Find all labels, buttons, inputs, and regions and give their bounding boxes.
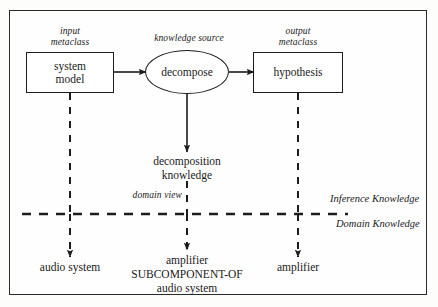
label-instance-center-line1: amplifier — [122, 254, 252, 268]
label-decomposition-knowledge: decomposition knowledge — [137, 155, 237, 183]
node-hypothesis[interactable]: hypothesis — [253, 52, 343, 93]
caption-knowledge-source: knowledge source — [136, 33, 242, 44]
caption-input-metaclass-line2: metaclass — [26, 37, 114, 48]
caption-domain-view-text: domain view — [133, 190, 182, 200]
label-inference-knowledge: Inference Knowledge — [330, 193, 419, 204]
label-instance-amplifier: amplifier — [266, 261, 330, 275]
label-domain-knowledge: Domain Knowledge — [336, 218, 420, 229]
node-system-model[interactable]: system model — [26, 52, 114, 93]
node-system-model-text: system model — [54, 60, 86, 86]
node-system-model-line1: system — [54, 60, 86, 73]
label-instance-center-line3: audio system — [122, 282, 252, 296]
label-instance-audio-system: audio system — [25, 261, 115, 275]
node-decompose[interactable]: decompose — [145, 50, 229, 94]
diagram-page: input metaclass knowledge source output … — [0, 0, 438, 307]
node-hypothesis-label: hypothesis — [273, 66, 322, 79]
caption-input-metaclass-line1: input — [26, 26, 114, 37]
caption-domain-view: domain view — [128, 190, 182, 201]
label-decomposition-knowledge-line1: decomposition — [137, 155, 237, 169]
label-instance-center-line2: SUBCOMPONENT-OF — [122, 268, 252, 282]
node-decompose-label: decompose — [161, 66, 213, 78]
caption-knowledge-source-line1: knowledge source — [136, 33, 242, 44]
node-system-model-line2: model — [54, 73, 86, 86]
label-instance-audio-system-line1: audio system — [25, 261, 115, 275]
label-instance-right-line1: amplifier — [266, 261, 330, 275]
caption-input-metaclass: input metaclass — [26, 26, 114, 48]
caption-output-metaclass-line2: metaclass — [254, 37, 342, 48]
caption-output-metaclass-line1: output — [254, 26, 342, 37]
label-decomposition-knowledge-line2: knowledge — [137, 169, 237, 183]
label-instance-amplifier-subcomponent: amplifier SUBCOMPONENT-OF audio system — [122, 254, 252, 295]
caption-output-metaclass: output metaclass — [254, 26, 342, 48]
